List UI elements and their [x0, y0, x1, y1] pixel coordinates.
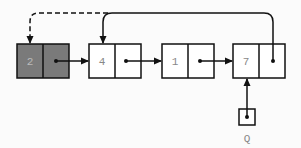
node-value: 1 [172, 56, 179, 68]
pointer-q: Q [239, 79, 255, 145]
linked-list-diagram: 2 4 1 7 Q [0, 0, 301, 148]
node-value: 4 [99, 56, 106, 68]
list-node-3: 7 [233, 44, 285, 78]
pointer-label: Q [244, 133, 251, 145]
node-value: 7 [243, 56, 250, 68]
node-value: 2 [27, 56, 34, 68]
dashed-arrow-to-n0 [30, 13, 108, 43]
